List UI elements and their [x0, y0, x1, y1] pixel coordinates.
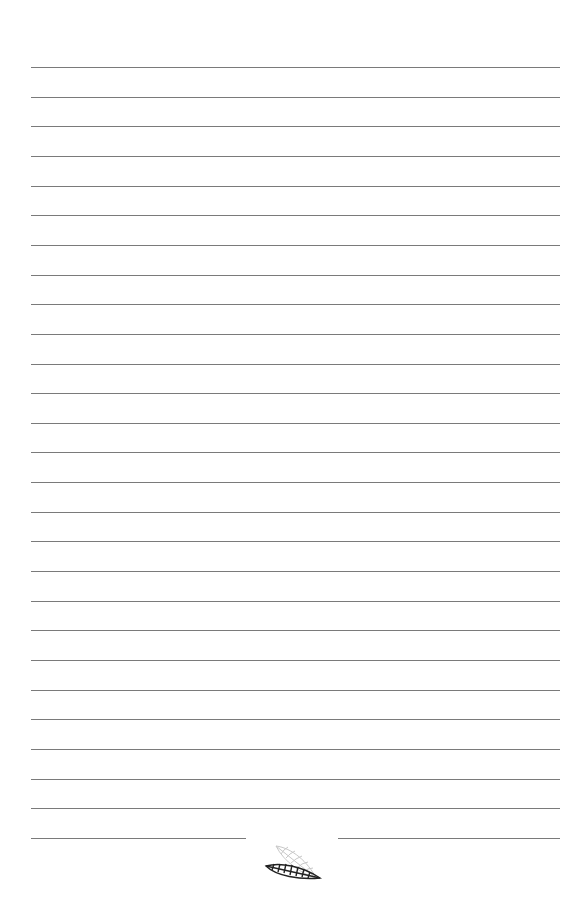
ruled-line-footer-left — [31, 838, 246, 839]
ruled-line — [31, 660, 560, 661]
ruled-line — [31, 393, 560, 394]
notebook-page — [0, 0, 579, 920]
ruled-line — [31, 364, 560, 365]
ruled-line — [31, 482, 560, 483]
ruled-line — [31, 156, 560, 157]
ruled-line — [31, 601, 560, 602]
ruled-line — [31, 275, 560, 276]
ruled-line — [31, 630, 560, 631]
ruled-line — [31, 690, 560, 691]
ruled-line-footer-right — [338, 838, 560, 839]
ruled-line — [31, 215, 560, 216]
ruled-line — [31, 808, 560, 809]
ruled-line — [31, 334, 560, 335]
ruled-line — [31, 245, 560, 246]
ruled-line — [31, 423, 560, 424]
leaf-ornament-icon — [262, 842, 328, 884]
ruled-line — [31, 541, 560, 542]
ruled-line — [31, 452, 560, 453]
ruled-line — [31, 126, 560, 127]
ruled-line — [31, 512, 560, 513]
ruled-line — [31, 749, 560, 750]
ruled-line — [31, 571, 560, 572]
ruled-line — [31, 97, 560, 98]
ruled-line — [31, 779, 560, 780]
ruled-line — [31, 67, 560, 68]
ruled-line — [31, 186, 560, 187]
ruled-line — [31, 304, 560, 305]
ruled-line — [31, 719, 560, 720]
